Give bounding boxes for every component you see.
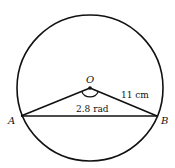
angle-arc	[82, 91, 99, 97]
label-a: A	[7, 115, 15, 126]
label-o: O	[86, 74, 94, 85]
label-b: B	[160, 115, 168, 126]
angle-label: 2.8 rad	[76, 104, 109, 114]
circle-sector-diagram: O A B 11 cm 2.8 rad	[0, 0, 175, 168]
radius-label: 11 cm	[121, 90, 149, 100]
center-point-o	[88, 86, 92, 90]
